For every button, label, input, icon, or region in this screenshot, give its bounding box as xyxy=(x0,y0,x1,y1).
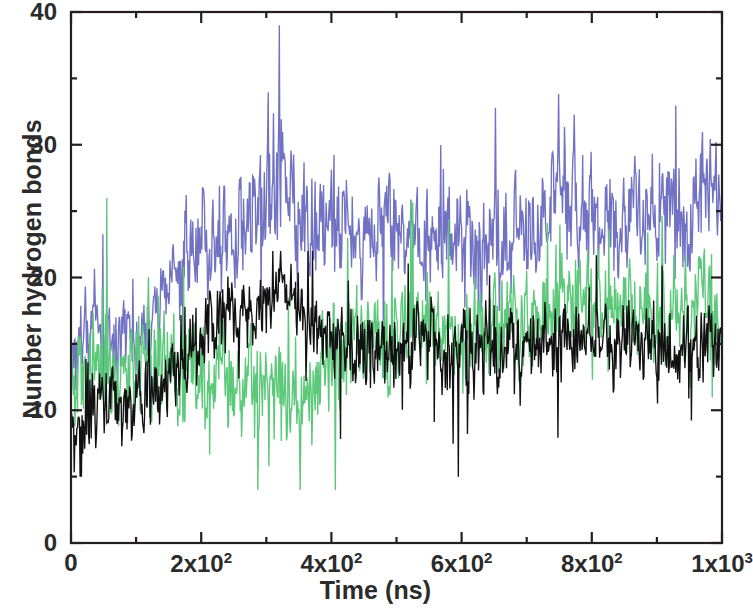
series-layer xyxy=(71,25,722,490)
y-axis-title: Number hydrogen bonds xyxy=(18,119,47,418)
x-tick-label: 6x102 xyxy=(431,549,493,578)
x-axis-title-wrap: Time (ns) xyxy=(0,576,751,605)
x-tick-label: 8x102 xyxy=(561,549,623,578)
x-axis-title: Time (ns) xyxy=(320,576,432,605)
x-tick-label: 1x103 xyxy=(691,549,753,578)
x-tick-label: 2x102 xyxy=(170,549,232,578)
y-tick-label: 40 xyxy=(0,0,57,26)
y-tick-label: 0 xyxy=(0,529,57,557)
x-tick-label: 4x102 xyxy=(301,549,363,578)
y-axis-title-wrap: Number hydrogen bonds xyxy=(16,69,48,469)
x-tick-label: 0 xyxy=(64,549,77,577)
